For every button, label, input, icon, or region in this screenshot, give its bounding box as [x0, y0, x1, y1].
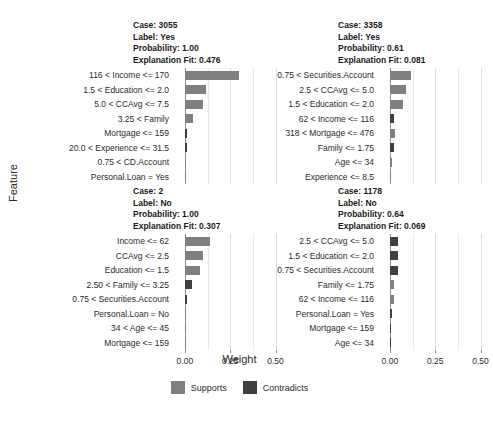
panel-header: Case: 1178Label: NoProbability: 0.64Expl… [338, 186, 425, 232]
legend-label-contradicts: Contradicts [263, 383, 309, 393]
tick-mark [435, 350, 436, 353]
tick-mark [481, 350, 482, 353]
panel-header-case: Case: 1178 [338, 186, 425, 198]
feature-row: 2.5 < CCAvg <= 5.0 [379, 234, 493, 249]
feature-bar-contradicts [390, 324, 391, 333]
legend-item-contradicts: Contradicts [243, 381, 309, 394]
feature-label: Age <= 34 [335, 338, 374, 348]
legend-swatch-supports [171, 381, 185, 394]
feature-label: Personal.Loan = Yes [296, 309, 374, 319]
feature-label: Mortgage <= 159 [309, 323, 374, 333]
legend-swatch-contradicts [243, 381, 257, 394]
legend: Supports Contradicts [0, 381, 479, 394]
feature-label: 0.75 < Securities.Account [277, 265, 374, 275]
x-tick-label: 0.00 [382, 356, 399, 366]
feature-bar-contradicts [390, 266, 398, 275]
x-axis-ticks: 0.000.250.50 [379, 356, 493, 370]
feature-bar-supports [390, 280, 394, 289]
x-tick-label: 0.25 [427, 356, 444, 366]
feature-label: 62 < Income <= 116 [299, 294, 374, 304]
feature-bar-supports [390, 295, 394, 304]
feature-row: Family <= 1.75 [379, 278, 493, 293]
feature-bar-contradicts [390, 309, 392, 318]
feature-bar-contradicts [390, 338, 391, 347]
panel-header-explanation-fit: Explanation Fit: 0.069 [338, 221, 425, 233]
feature-bar-contradicts [390, 251, 398, 260]
feature-rows: 2.5 < CCAvg <= 5.01.5 < Education <= 2.0… [379, 234, 493, 350]
feature-row: 62 < Income <= 116 [379, 292, 493, 307]
feature-row: 1.5 < Education <= 2.0 [379, 249, 493, 264]
plot-area: 2.5 < CCAvg <= 5.01.5 < Education <= 2.0… [379, 234, 493, 350]
feature-label: 2.5 < CCAvg <= 5.0 [299, 236, 374, 246]
tick-mark [390, 350, 391, 353]
feature-label: 1.5 < Education <= 2.0 [288, 251, 374, 261]
panel-header-probability: Probability: 0.64 [338, 209, 425, 221]
legend-label-supports: Supports [191, 383, 227, 393]
feature-label: Family <= 1.75 [318, 280, 374, 290]
legend-item-supports: Supports [171, 381, 227, 394]
feature-row: Age <= 34 [379, 336, 493, 351]
feature-row: 0.75 < Securities.Account [379, 263, 493, 278]
x-tick-label: 0.50 [472, 356, 489, 366]
feature-row: Mortgage <= 159 [379, 321, 493, 336]
feature-bar-contradicts [390, 237, 398, 246]
feature-row: Personal.Loan = Yes [379, 307, 493, 322]
panel-header-label: Label: No [338, 198, 425, 210]
